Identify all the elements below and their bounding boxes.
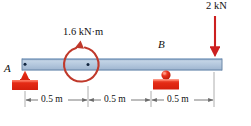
- dimension-label-2: 0.5 m: [104, 94, 126, 104]
- dimension-label-1: 0.5 m: [41, 94, 63, 104]
- beam-diagram: A B 1.6 kN·m 2 kN 0.5 m 0.5 m 0.5 m: [0, 0, 251, 126]
- applied-couple-label: 1.6 kN·m: [63, 27, 103, 38]
- dimension-label-3: 0.5 m: [167, 94, 189, 104]
- support-b-label: B: [158, 39, 165, 50]
- roller-support: [153, 70, 179, 89]
- point-load-label: 2 kN: [206, 1, 227, 12]
- beam: [22, 59, 222, 71]
- support-a-label: A: [4, 63, 11, 74]
- diagram-canvas: [0, 0, 251, 126]
